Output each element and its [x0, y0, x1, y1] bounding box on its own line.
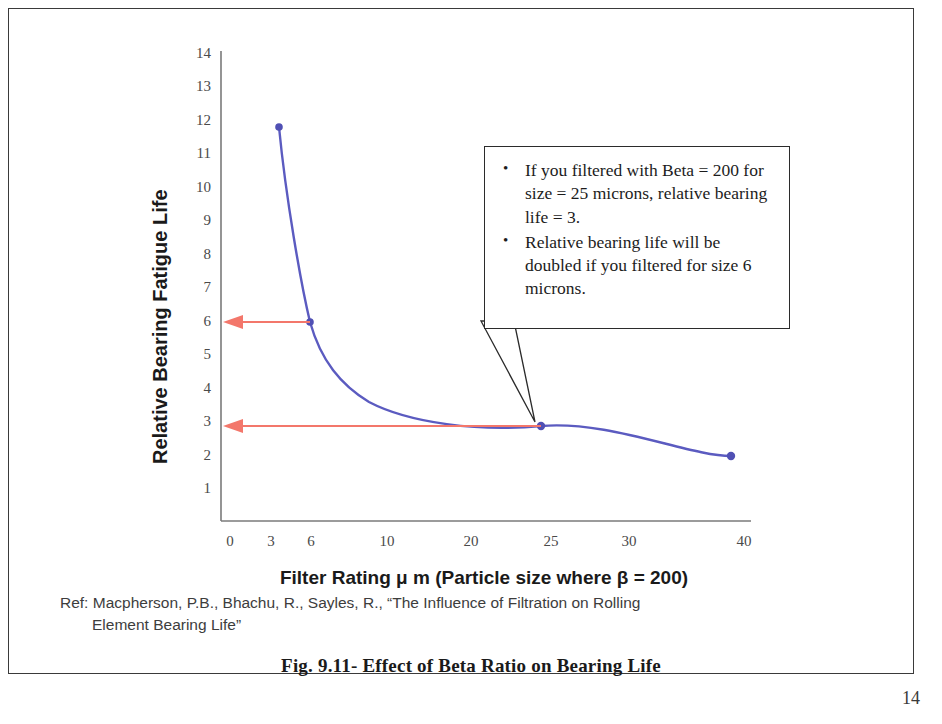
x-tick-30: 30 [622, 533, 637, 549]
x-axis-tick-labels: 0 3 6 10 20 25 30 40 [226, 533, 751, 549]
callout-item-2: • Relative bearing life will be doubled … [495, 231, 775, 301]
x-tick-10: 10 [380, 533, 395, 549]
y-tick-5: 5 [204, 346, 212, 362]
reference-citation: Ref: Macpherson, P.B., Bhachu, R., Sayle… [60, 592, 790, 637]
page-number: 14 [902, 688, 920, 709]
y-tick-10: 10 [196, 179, 211, 195]
y-tick-8: 8 [204, 246, 212, 262]
y-axis-title: Relative Bearing Fatigue Life [149, 189, 171, 464]
x-tick-3: 3 [267, 533, 275, 549]
x-tick-0: 0 [226, 533, 234, 549]
figure-caption: Fig. 9.11- Effect of Beta Ratio on Beari… [0, 655, 942, 677]
chart-plot-area: 14 13 12 11 10 9 8 7 6 5 4 3 2 1 0 3 6 1… [9, 9, 915, 675]
arrow-head-to-3 [223, 419, 243, 433]
arrow-head-to-6 [223, 315, 243, 329]
y-tick-2: 2 [204, 447, 212, 463]
y-tick-4: 4 [204, 380, 212, 396]
y-axis-tick-labels: 14 13 12 11 10 9 8 7 6 5 4 3 2 1 [196, 45, 212, 496]
y-tick-9: 9 [204, 212, 212, 228]
y-tick-13: 13 [196, 78, 211, 94]
x-axis-title: Filter Rating μ m (Particle size where β… [280, 567, 688, 588]
slide-frame: 14 13 12 11 10 9 8 7 6 5 4 3 2 1 0 3 6 1… [8, 8, 914, 674]
y-tick-1: 1 [204, 480, 212, 496]
data-point-3 [275, 123, 283, 131]
x-tick-25: 25 [544, 533, 559, 549]
x-tick-6: 6 [307, 533, 315, 549]
callout-item-1-text: If you filtered with Beta = 200 for size… [525, 160, 767, 227]
callout-leader-tail [481, 321, 535, 422]
callout-item-1: • If you filtered with Beta = 200 for si… [495, 159, 775, 229]
y-tick-12: 12 [196, 112, 211, 128]
y-tick-7: 7 [204, 279, 212, 295]
y-tick-3: 3 [204, 413, 212, 429]
reference-line-1: Ref: Macpherson, P.B., Bhachu, R., Sayle… [60, 594, 640, 611]
x-tick-40: 40 [737, 533, 752, 549]
callout-annotation-box: • If you filtered with Beta = 200 for si… [484, 146, 790, 329]
x-tick-20: 20 [464, 533, 479, 549]
bearing-life-chart: 14 13 12 11 10 9 8 7 6 5 4 3 2 1 0 3 6 1… [9, 9, 915, 675]
bullet-icon: • [503, 231, 508, 251]
bullet-icon: • [503, 159, 508, 179]
data-point-40 [727, 452, 735, 460]
y-tick-14: 14 [196, 45, 212, 61]
y-tick-11: 11 [197, 145, 211, 161]
y-tick-6: 6 [204, 313, 212, 329]
reference-line-2: Element Bearing Life” [60, 614, 790, 636]
callout-item-2-text: Relative bearing life will be doubled if… [525, 232, 751, 299]
callout-bullet-list: • If you filtered with Beta = 200 for si… [495, 159, 775, 301]
